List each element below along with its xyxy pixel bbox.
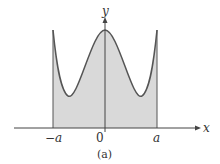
x-axis-label: x bbox=[203, 121, 210, 135]
y-axis-label: y bbox=[101, 4, 109, 18]
figure-caption: (a) bbox=[97, 148, 112, 161]
x-axis-arrow-icon bbox=[195, 126, 201, 131]
tick-label-a: a bbox=[153, 131, 160, 145]
diagram: x y −a a 0 (a) bbox=[0, 0, 220, 164]
origin-label: 0 bbox=[96, 131, 104, 145]
tick-label-neg-a: −a bbox=[45, 131, 62, 145]
